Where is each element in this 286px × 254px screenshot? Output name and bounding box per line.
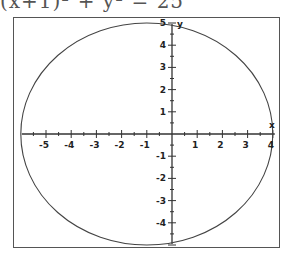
- y-tick-label: 1: [160, 107, 166, 117]
- x-tick-label: 2: [217, 140, 223, 150]
- y-tick-label: 2: [160, 85, 166, 95]
- x-tick-label: 3: [242, 140, 248, 150]
- x-tick-label: -4: [64, 140, 74, 150]
- y-tick-label: 4: [160, 40, 166, 50]
- axis-labels: -5-4-3-2-11234-4-3-2-112345xy: [39, 18, 275, 228]
- y-tick-label: -1: [156, 151, 166, 161]
- y-tick-label: -2: [156, 173, 166, 183]
- x-tick-label: -5: [39, 140, 49, 150]
- x-tick-label: 1: [192, 140, 198, 150]
- y-tick-label: -3: [156, 196, 166, 206]
- y-tick-label: -4: [156, 218, 166, 228]
- y-tick-label: 5: [160, 18, 166, 28]
- x-tick-label: -3: [89, 140, 99, 150]
- x-tick-label: -2: [115, 140, 125, 150]
- x-tick-label: 4: [268, 140, 274, 150]
- x-axis-label: x: [269, 120, 275, 130]
- y-tick-label: 3: [160, 62, 166, 72]
- circle-plot: -5-4-3-2-11234-4-3-2-112345xy: [0, 0, 286, 254]
- x-tick-label: -1: [140, 140, 150, 150]
- y-axis-label: y: [177, 19, 183, 29]
